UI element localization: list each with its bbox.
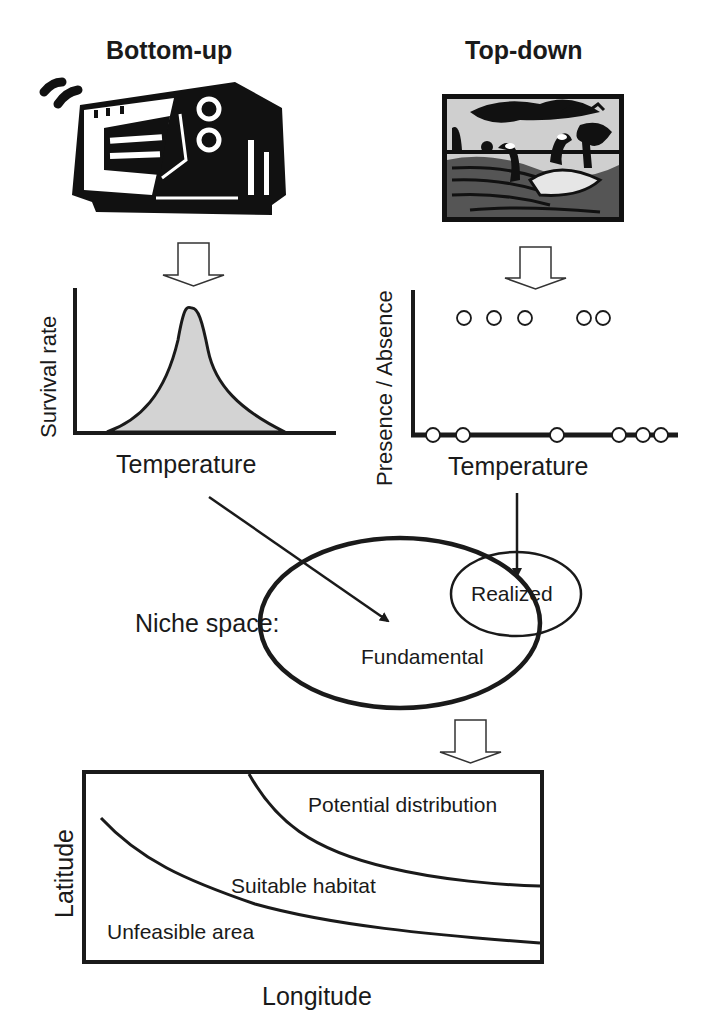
- suitable-habitat-label: Suitable habitat: [231, 874, 376, 898]
- potential-distribution-label: Potential distribution: [308, 793, 497, 817]
- down-arrow-icon: [505, 247, 566, 289]
- fundamental-niche-ellipse: [260, 538, 540, 708]
- down-arrow-icon: [163, 243, 224, 286]
- latitude-ylabel: Latitude: [50, 829, 79, 918]
- presence-absence-chart: [411, 290, 678, 442]
- top-down-xlabel: Temperature: [448, 452, 588, 481]
- longitude-xlabel: Longitude: [262, 982, 372, 1011]
- unfeasible-area-label: Unfeasible area: [107, 920, 254, 944]
- bottom-up-arrow: [209, 497, 388, 621]
- oven-icon: [44, 82, 286, 215]
- diagram-canvas: [0, 0, 705, 1011]
- realized-label: Realized: [471, 582, 553, 606]
- geese-landscape-icon: [442, 94, 624, 222]
- down-arrow-icon: [440, 720, 501, 763]
- bottom-up-xlabel: Temperature: [116, 450, 256, 479]
- survival-rate-chart: [73, 288, 336, 434]
- survival-rate-ylabel: Survival rate: [36, 316, 62, 438]
- fundamental-label: Fundamental: [361, 645, 484, 669]
- niche-space-label: Niche space:: [135, 609, 280, 638]
- presence-absence-ylabel: Presence / Absence: [372, 290, 398, 486]
